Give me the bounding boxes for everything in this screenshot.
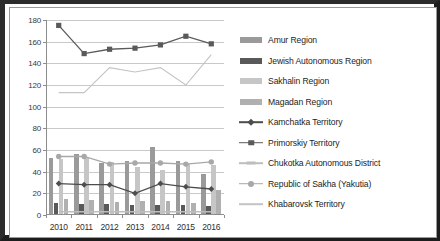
legend-item-label: Khabarovsk Territory — [268, 199, 345, 209]
data-point-marker — [158, 42, 163, 47]
legend-item-label: Kamchatka Territory — [268, 117, 342, 127]
data-point-marker — [132, 160, 137, 165]
data-point-marker — [107, 182, 113, 188]
x-axis-tick-label: 2010 — [50, 222, 68, 232]
x-axis-tick-label: 2015 — [177, 222, 195, 232]
x-axis-tick-mark — [224, 215, 225, 218]
legend-item[interactable]: Magadan Region — [238, 92, 434, 113]
legend-item-label: Amur Region — [268, 35, 317, 45]
legend-item[interactable]: Amur Region — [238, 30, 434, 51]
data-point-marker — [132, 46, 137, 51]
x-axis-tick-label: 2014 — [151, 222, 169, 232]
x-axis-tick-label: 2011 — [75, 222, 92, 232]
legend-item-label: Magadan Region — [268, 97, 332, 107]
legend-item-label: Sakhalin Region — [268, 76, 329, 86]
data-point-marker — [158, 160, 163, 165]
x-axis-tick-label: 2016 — [202, 222, 220, 232]
legend-key-icon — [238, 116, 264, 128]
y-axis-tick-label: 160 — [28, 37, 41, 46]
legend-key-icon — [238, 198, 264, 210]
line-layer — [46, 20, 224, 215]
data-point-marker — [107, 47, 112, 52]
y-axis-tick-label: 100 — [28, 102, 41, 111]
y-axis-tick-label: 140 — [28, 59, 41, 68]
data-point-marker — [132, 190, 138, 196]
data-point-marker — [82, 51, 87, 56]
chart-legend: Amur RegionJewish Autonomous RegionSakha… — [238, 30, 434, 215]
legend-key-icon — [238, 75, 264, 87]
x-axis-tick-label: 2013 — [126, 222, 144, 232]
legend-key-icon — [238, 34, 264, 46]
legend-item[interactable]: Kamchatka Territory — [238, 112, 434, 133]
data-point-marker — [208, 186, 214, 192]
data-point-marker — [56, 181, 62, 187]
data-point-marker — [183, 184, 189, 190]
legend-key-icon — [238, 55, 264, 67]
x-axis-tick-mark — [46, 215, 47, 218]
legend-item[interactable]: Khabarovsk Territory — [238, 194, 434, 215]
data-point-marker — [209, 41, 214, 46]
x-axis-tick-label: 2012 — [101, 222, 119, 232]
legend-item[interactable]: Chukotka Autonomous District — [238, 153, 434, 174]
x-axis-tick-mark — [199, 215, 200, 218]
legend-item-label: Primorskiy Territory — [268, 138, 339, 148]
data-point-marker — [81, 182, 87, 188]
x-axis-tick-mark — [71, 215, 72, 218]
y-axis-tick-label: 80 — [33, 124, 42, 133]
x-axis-tick-mark — [148, 215, 149, 218]
data-point-marker — [209, 159, 214, 164]
legend-key-icon — [238, 137, 264, 149]
legend-item[interactable]: Sakhalin Region — [238, 71, 434, 92]
data-point-marker — [183, 34, 188, 39]
y-axis-tick-label: 40 — [33, 167, 42, 176]
y-axis-tick-label: 180 — [28, 16, 41, 25]
legend-item-label: Chukotka Autonomous District — [268, 158, 380, 168]
legend-key-icon — [238, 96, 264, 108]
chart-canvas: 020406080100120140160180 201020112012201… — [9, 7, 437, 238]
y-axis-tick-label: 120 — [28, 81, 41, 90]
legend-key-icon — [238, 178, 264, 190]
y-axis-tick-label: 20 — [33, 189, 42, 198]
data-point-marker — [56, 154, 61, 159]
legend-item-label: Republic of Sakha (Yakutia) — [268, 179, 371, 189]
plot-area: 020406080100120140160180 201020112012201… — [46, 20, 224, 215]
x-axis-tick-mark — [97, 215, 98, 218]
x-axis-tick-mark — [122, 215, 123, 218]
data-point-marker — [81, 154, 86, 159]
data-point-marker — [157, 181, 163, 187]
line-series — [59, 55, 212, 93]
y-axis-tick-label: 60 — [33, 146, 42, 155]
image-border: 020406080100120140160180 201020112012201… — [0, 0, 440, 241]
legend-key-icon — [238, 157, 264, 169]
data-point-marker — [107, 161, 112, 166]
legend-item-label: Jewish Autonomous Region — [268, 56, 372, 66]
legend-item[interactable]: Republic of Sakha (Yakutia) — [238, 174, 434, 195]
data-point-marker — [183, 161, 188, 166]
y-axis-tick-label: 0 — [37, 211, 41, 220]
data-point-marker — [56, 23, 61, 28]
legend-item[interactable]: Primorskiy Territory — [238, 133, 434, 154]
legend-item[interactable]: Jewish Autonomous Region — [238, 51, 434, 72]
x-axis-tick-mark — [173, 215, 174, 218]
